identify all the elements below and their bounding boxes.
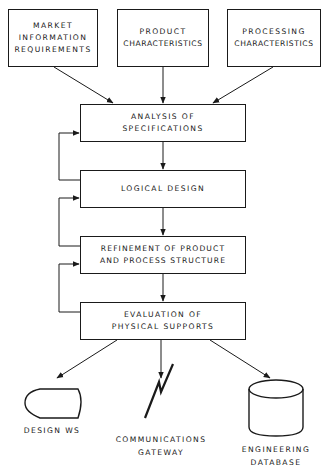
input-label-line: CHARACTERISTICS <box>123 38 202 50</box>
arrow-evaluation-to-database <box>210 340 270 378</box>
step-box-refinement: REFINEMENT OF PRODUCT AND PROCESS STRUCT… <box>80 236 246 274</box>
output-caption-design-ws: DESIGN WS <box>20 424 84 437</box>
step-label-line: REFINEMENT OF PRODUCT <box>101 243 225 255</box>
input-box-market-information: MARKET INFORMATION REQUIREMENTS <box>8 9 98 67</box>
input-label-line: PROCESSING <box>242 26 305 38</box>
arrow-processing-to-analysis <box>213 67 273 103</box>
caption-line: COMMUNICATIONS <box>115 433 207 446</box>
database-cylinder-icon <box>249 380 303 436</box>
step-label-line: ANALYSIS OF <box>131 111 195 123</box>
input-label-line: MARKET <box>33 20 73 32</box>
step-label-line: SPECIFICATIONS <box>122 123 203 135</box>
feedback-evaluation-to-refinement <box>59 264 80 312</box>
step-box-analysis-of-specifications: ANALYSIS OF SPECIFICATIONS <box>80 104 246 142</box>
step-box-evaluation-of-physical-supports: EVALUATION OF PHYSICAL SUPPORTS <box>80 302 246 340</box>
arrow-market-to-analysis <box>54 67 113 103</box>
input-label-line: PRODUCT <box>140 26 187 38</box>
output-caption-communications-gateway: COMMUNICATIONS GATEWAY <box>115 433 207 459</box>
step-box-logical-design: LOGICAL DESIGN <box>80 170 246 208</box>
feedback-logical-to-analysis <box>59 133 80 180</box>
caption-line: DATABASE <box>236 456 316 469</box>
step-label-line: AND PROCESS STRUCTURE <box>100 255 226 267</box>
arrow-evaluation-to-design-ws <box>57 340 117 378</box>
input-label-line: INFORMATION <box>19 32 88 44</box>
caption-line: DESIGN WS <box>20 424 84 437</box>
caption-line: ENGINEERING <box>236 443 316 456</box>
step-label-line: LOGICAL DESIGN <box>121 183 205 195</box>
lightning-link-icon <box>145 364 173 418</box>
design-workstation-icon <box>25 389 81 418</box>
output-caption-engineering-database: ENGINEERING DATABASE <box>236 443 316 469</box>
step-label-line: PHYSICAL SUPPORTS <box>112 321 215 333</box>
feedback-refinement-to-logical <box>59 198 80 246</box>
step-label-line: EVALUATION OF <box>124 309 202 321</box>
input-label-line: REQUIREMENTS <box>14 44 91 56</box>
input-label-line: CHARACTERISTICS <box>234 38 313 50</box>
input-box-product-characteristics: PRODUCT CHARACTERISTICS <box>117 9 209 67</box>
input-box-processing-characteristics: PROCESSING CHARACTERISTICS <box>227 9 321 67</box>
caption-line: GATEWAY <box>115 446 207 459</box>
